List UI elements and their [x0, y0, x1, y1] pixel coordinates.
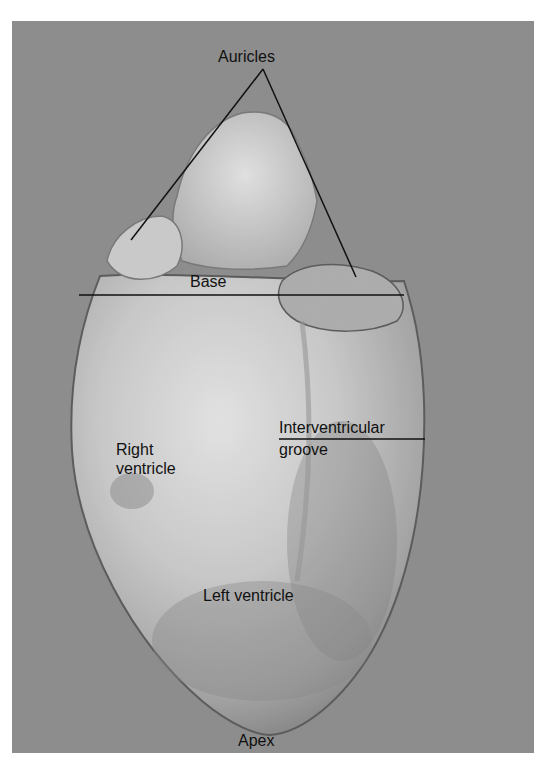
interventricular-label-line2: groove: [279, 440, 328, 459]
base-label: Base: [190, 272, 226, 291]
heart-photo: Auricles Base Right ventricle Interventr…: [12, 21, 534, 753]
left-ventricle-label: Left ventricle: [203, 586, 294, 605]
auricles-label: Auricles: [218, 47, 275, 66]
heart-illustration: [12, 21, 534, 753]
right-ventricle-label: Right ventricle: [116, 440, 176, 478]
right-ventricle-label-line1: Right: [116, 440, 176, 459]
right-ventricle-label-line2: ventricle: [116, 459, 176, 478]
apex-label: Apex: [238, 731, 274, 750]
interventricular-label-line1: Interventricular: [279, 418, 385, 437]
